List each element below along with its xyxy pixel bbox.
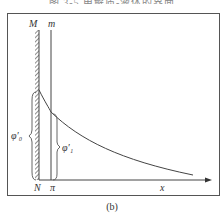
label-N: N xyxy=(34,183,41,193)
label-M: M xyxy=(29,19,37,29)
label-phi0: φ′₀ xyxy=(11,131,22,141)
brace-phi1 xyxy=(53,114,60,180)
label-x: x xyxy=(160,183,164,193)
x-axis-arrow xyxy=(205,178,212,183)
figure-caption: (b) xyxy=(0,201,224,212)
label-phi1: φ′₁ xyxy=(62,143,73,153)
brace-phi0 xyxy=(29,92,36,180)
label-pi: π xyxy=(50,183,55,193)
electrode-M-hatching xyxy=(35,30,39,180)
label-m: m xyxy=(48,19,55,29)
potential-curve xyxy=(39,90,193,175)
